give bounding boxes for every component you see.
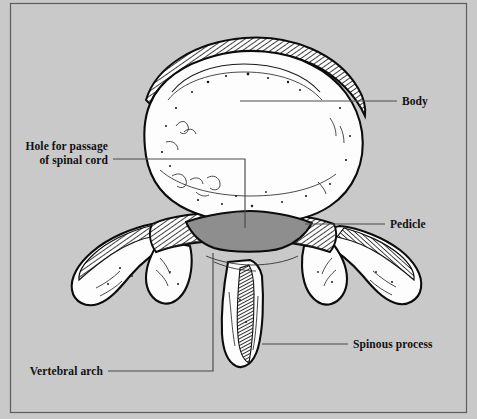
label-body: Body <box>402 95 428 108</box>
label-hole-for-passage-line2: of spinal cord <box>40 154 109 167</box>
vertebra-illustration: Body Pedicle Spinous process Hole for pa… <box>0 0 477 419</box>
spinous-process <box>222 260 263 367</box>
label-pedicle: Pedicle <box>390 218 426 230</box>
label-vertebral-arch: Vertebral arch <box>30 365 104 377</box>
label-hole-for-passage-line1: Hole for passage <box>25 140 108 153</box>
vertebra-figure: Body Pedicle Spinous process Hole for pa… <box>0 0 477 419</box>
label-spinous-process: Spinous process <box>353 338 433 351</box>
vertebral-body <box>144 37 365 223</box>
